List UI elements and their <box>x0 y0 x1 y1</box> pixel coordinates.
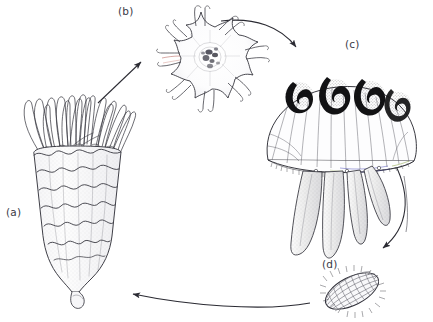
label-b: (b) <box>118 5 133 17</box>
arrow-d-to-a <box>133 294 310 307</box>
label-d: (d) <box>322 258 337 270</box>
stage-a-strobila-polyp <box>24 95 136 309</box>
diagram-canvas <box>0 0 433 322</box>
life-cycle-diagram: (a) (b) (c) (d) <box>0 0 433 322</box>
arrow-a-to-b <box>98 62 141 103</box>
label-a: (a) <box>6 206 21 218</box>
polyp-tentacles <box>24 95 136 153</box>
medusa-oral-arms <box>291 166 390 258</box>
stage-c-adult-medusa <box>267 77 416 258</box>
stage-d-planula-larva <box>320 265 386 318</box>
label-c: (c) <box>345 38 360 50</box>
